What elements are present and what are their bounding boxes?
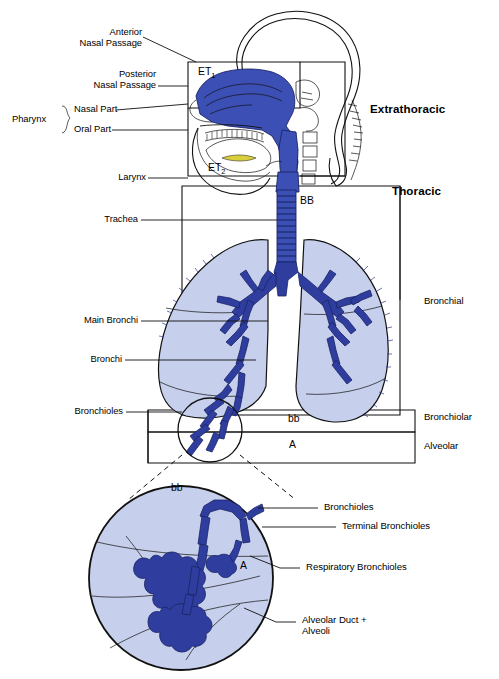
- trachea: [277, 190, 296, 268]
- label-extrathoracic: Extrathoracic: [370, 104, 445, 115]
- label-inset-bronchioles: Bronchioles: [324, 502, 374, 513]
- label-trachea: Trachea: [80, 214, 138, 225]
- label-alveolar: Alveolar: [424, 441, 458, 452]
- label-bb-inset: bb: [171, 483, 182, 494]
- label-anterior-nasal-passage: Anterior Nasal Passage: [52, 27, 142, 48]
- label-alveolar-duct-alveoli: Alveolar Duct + Alveoli: [302, 615, 367, 636]
- label-thoracic: Thoracic: [392, 186, 441, 197]
- label-et1: ET1: [198, 67, 215, 81]
- inset-detail-circle: [89, 486, 273, 670]
- label-main-bronchi: Main Bronchi: [52, 315, 138, 326]
- label-bronchioles: Bronchioles: [44, 406, 123, 417]
- alveolar-region-box: [148, 432, 415, 463]
- label-bronchial: Bronchial: [424, 296, 464, 307]
- label-bb-lower: bb: [288, 414, 299, 425]
- label-oral-part: Oral Part: [74, 124, 111, 135]
- label-nasal-part: Nasal Part: [74, 104, 117, 115]
- pharynx-brace: [62, 106, 70, 133]
- respiratory-tract-diagram: .ln{stroke:#111;fill:none;} .lead{stroke…: [0, 0, 499, 679]
- label-larynx: Larynx: [88, 172, 146, 183]
- label-posterior-nasal-passage: Posterior Nasal Passage: [62, 69, 156, 90]
- left-lung: [158, 240, 268, 418]
- label-bb-upper: BB: [300, 196, 314, 207]
- label-a-main: A: [289, 440, 296, 451]
- right-lung: [296, 240, 393, 422]
- label-a-inset: A: [240, 561, 247, 572]
- label-respiratory-bronchioles: Respiratory Bronchioles: [306, 562, 407, 573]
- label-et2: ET2: [208, 163, 225, 177]
- label-terminal-bronchioles: Terminal Bronchioles: [342, 521, 430, 532]
- label-bronchiolar: Bronchiolar: [424, 412, 472, 423]
- label-bronchi: Bronchi: [52, 354, 122, 365]
- label-pharynx: Pharynx: [12, 114, 46, 125]
